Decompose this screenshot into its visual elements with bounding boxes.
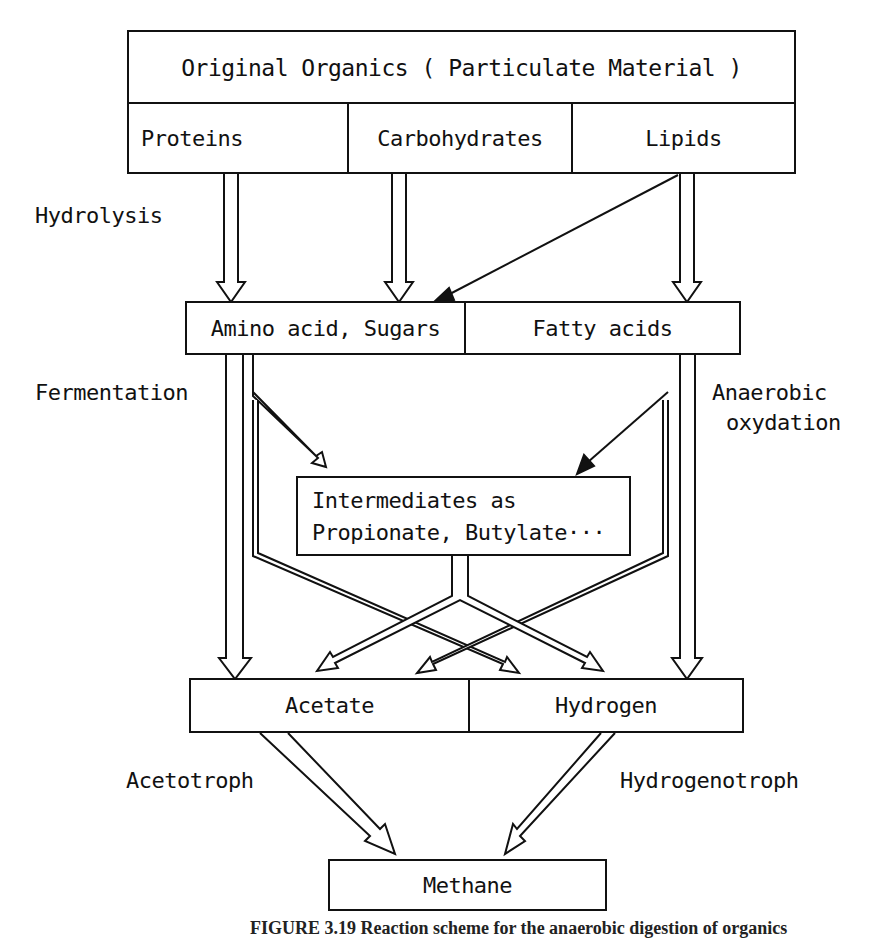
label-acetotroph: Acetotroph [126,768,253,794]
arrow-proteins-to-amino [217,174,245,302]
amino-sugars-cell: Amino acid, Sugars [187,303,464,353]
lipids-cell: Lipids [573,104,794,172]
arrow-acetate-to-methane [260,733,395,854]
original-organics-title: Original Organics ( Particulate Material… [129,32,794,103]
carbohydrates-cell: Carbohydrates [349,104,571,172]
intermediates-line2: Propionate, Butylate··· [312,520,605,546]
intermediates-line1: Intermediates as [312,488,516,514]
arrow-carbohydrates-to-sugars [385,174,413,302]
methanogenic-substrates-box: Acetate Hydrogen [189,678,744,733]
methane-box: Methane [328,859,607,911]
proteins-cell: Proteins [129,104,347,172]
original-organics-box: Original Organics ( Particulate Material… [127,30,796,174]
line-fatty-to-intermediates [588,392,668,462]
label-fermentation: Fermentation [35,380,188,406]
line-lipids-to-sugars [446,175,678,296]
arrow-lipids-to-fatty [673,174,701,302]
arrow-fatty-to-hydrogen [672,354,702,679]
acetate-cell: Acetate [191,680,468,731]
fatty-acids-cell: Fatty acids [466,303,739,353]
arrow-amino-to-acetate [219,354,251,679]
arrow-intermediates-split [317,556,603,671]
hydrolysis-products-box: Amino acid, Sugars Fatty acids [185,301,741,355]
arrow-amino-to-intermediates [253,354,326,467]
intermediates-box: Intermediates as Propionate, Butylate··· [296,476,631,556]
figure-caption: FIGURE 3.19 Reaction scheme for the anae… [250,918,787,939]
label-anaerobic-line1: Anaerobic [712,380,827,406]
label-hydrogenotroph: Hydrogenotroph [620,768,798,794]
hydrogen-cell: Hydrogen [470,680,742,731]
methane-cell: Methane [330,861,605,909]
arrow-hydrogen-to-methane [505,733,615,854]
label-anaerobic-line2: oxydation [726,410,841,436]
label-hydrolysis: Hydrolysis [35,203,162,229]
